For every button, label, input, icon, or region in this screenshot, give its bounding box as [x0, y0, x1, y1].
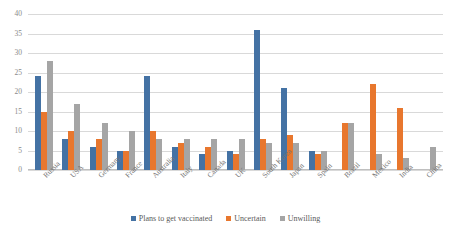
plot-area — [28, 14, 443, 170]
y-axis-tick-label: 10 — [2, 127, 22, 135]
bar — [74, 104, 80, 170]
x-axis-label-cell: Brazil — [331, 172, 358, 218]
legend-item[interactable]: Unwilling — [280, 214, 320, 223]
x-axis-label-cell: Canada — [194, 172, 221, 218]
bar-group — [57, 14, 84, 170]
y-axis-tick-label: 25 — [2, 69, 22, 77]
bar-group — [30, 14, 57, 170]
legend-label: Unwilling — [288, 214, 320, 223]
x-axis-label-cell: Australia — [140, 172, 167, 218]
y-axis-tick-label: 40 — [2, 10, 22, 18]
bar-group — [112, 14, 139, 170]
legend-swatch-icon — [226, 216, 231, 221]
bar-group — [386, 14, 413, 170]
legend-swatch-icon — [131, 216, 136, 221]
legend-label: Uncertain — [234, 214, 266, 223]
x-axis-label-cell: Japan — [277, 172, 304, 218]
x-axis-label-cell: South Korea — [249, 172, 276, 218]
y-axis-tick-label: 30 — [2, 49, 22, 57]
bar-group — [331, 14, 358, 170]
x-axis-label-cell: China — [414, 172, 441, 218]
y-axis-tick-label: 15 — [2, 108, 22, 116]
y-axis-tick-label: 35 — [2, 30, 22, 38]
bar-group — [249, 14, 276, 170]
x-axis-label-cell: UK — [222, 172, 249, 218]
bar-groups — [28, 14, 443, 170]
bar-chart: 0510152025303540 RussiaUSAGermanyFranceA… — [0, 0, 451, 246]
bar-group — [359, 14, 386, 170]
bar-group — [414, 14, 441, 170]
x-axis-label-cell: USA — [57, 172, 84, 218]
bar-group — [277, 14, 304, 170]
bar-group — [222, 14, 249, 170]
bar-group — [194, 14, 221, 170]
y-axis-tick-label: 5 — [2, 147, 22, 155]
x-axis-label-cell: France — [112, 172, 139, 218]
x-axis-label-cell: Italy — [167, 172, 194, 218]
x-axis-label-cell: Germany — [85, 172, 112, 218]
x-axis-category-labels: RussiaUSAGermanyFranceAustraliaItalyCana… — [28, 172, 443, 218]
bar-group — [85, 14, 112, 170]
bar — [47, 61, 53, 170]
x-axis-label-cell: India — [386, 172, 413, 218]
y-axis-tick-label: 0 — [2, 166, 22, 174]
legend-label: Plans to get vaccinated — [139, 214, 213, 223]
chart-legend: Plans to get vaccinatedUncertainUnwillin… — [0, 214, 451, 223]
x-axis-label-cell: Mexico — [359, 172, 386, 218]
x-axis-label-cell: Spain — [304, 172, 331, 218]
legend-swatch-icon — [280, 216, 285, 221]
bar-group — [304, 14, 331, 170]
y-axis-tick-label: 20 — [2, 88, 22, 96]
x-axis-label-cell: Russia — [30, 172, 57, 218]
legend-item[interactable]: Plans to get vaccinated — [131, 214, 213, 223]
legend-item[interactable]: Uncertain — [226, 214, 266, 223]
bar-group — [140, 14, 167, 170]
bar-group — [167, 14, 194, 170]
